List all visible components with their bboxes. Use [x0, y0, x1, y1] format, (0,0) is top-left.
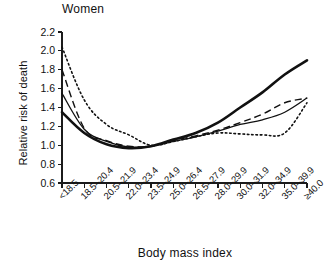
- chart-axes: [62, 32, 307, 183]
- y-tick-label: 2.2: [40, 26, 55, 38]
- y-tick-label: 1.6: [40, 82, 55, 94]
- y-tick-label: 1.0: [40, 139, 55, 151]
- chart-plot-area: 0.60.81.01.21.41.61.82.02.2: [0, 0, 330, 272]
- chart-figure: Women Relative risk of death 0.60.81.01.…: [0, 0, 330, 272]
- y-tick-label: 0.6: [40, 177, 55, 189]
- y-tick-label: 1.2: [40, 120, 55, 132]
- y-tick-label: 2.0: [40, 44, 55, 56]
- x-axis-ticks: [62, 183, 307, 188]
- y-tick-label: 1.8: [40, 63, 55, 75]
- y-tick-label: 0.8: [40, 158, 55, 170]
- y-axis-ticks: 0.60.81.01.21.41.61.82.02.2: [40, 26, 62, 189]
- chart-series-lines: [62, 47, 307, 148]
- y-tick-label: 1.4: [40, 101, 55, 113]
- x-axis-label: Body mass index: [62, 246, 308, 260]
- series-line-dotted: [62, 47, 307, 145]
